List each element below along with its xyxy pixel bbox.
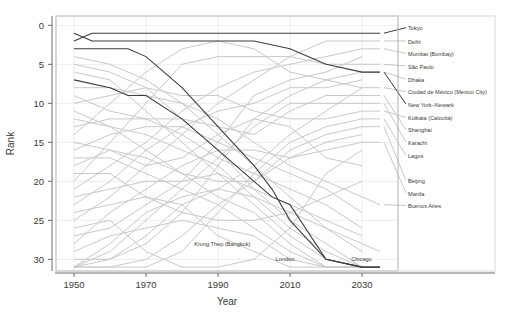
leader-line-tokyo [384, 28, 406, 33]
leader-line-dhaka [384, 72, 406, 79]
series-label-krung-thep-bangkok: Krung Thep (Bangkok) [194, 241, 250, 247]
series-label-tokyo: Tokyo [408, 25, 423, 31]
y-tick-label-20: 20 [33, 176, 44, 187]
series-label-dhaka: Dhaka [408, 77, 425, 83]
x-tick-label-1950: 1950 [63, 279, 84, 290]
plot-frame [56, 16, 398, 271]
series-line-tokyo [74, 33, 380, 41]
x-tick-label-2030: 2030 [351, 279, 372, 290]
series-label-london: London [276, 256, 295, 262]
leader-line-buenos-aires [384, 205, 406, 206]
leader-line-beijing [384, 127, 406, 181]
leader-line-mumbai-bombay [384, 49, 406, 54]
x-axis-title: Year [217, 296, 238, 307]
series-label-ciudad-de-m-xico-mexico-city: Ciudad de México (Mexico City) [408, 89, 487, 95]
rank-over-time-chart: TokyoDelhiMumbai (Bombay)São PauloDhakaC… [0, 0, 511, 315]
series-label-buenos-aires: Buenos Aires [408, 203, 441, 209]
series-label-karachi: Karachi [408, 140, 427, 146]
y-tick-label-0: 0 [39, 20, 44, 31]
x-tick-label-1990: 1990 [207, 279, 228, 290]
chart-canvas: TokyoDelhiMumbai (Bombay)São PauloDhakaC… [0, 0, 511, 315]
series-label-lagos: Lagos [408, 153, 423, 159]
series-label-mumbai-bombay: Mumbai (Bombay) [408, 51, 454, 57]
series-label-manila: Manila [408, 191, 425, 197]
y-tick-label-25: 25 [33, 215, 44, 226]
series-label-kolkata-calcutta: Kolkata (Calcutta) [408, 115, 453, 121]
series-label-new-york-newark: New York–Newark [408, 102, 454, 108]
series-label-s-o-paulo: São Paulo [408, 64, 434, 70]
series-label-delhi: Delhi [408, 39, 421, 45]
y-tick-label-10: 10 [33, 98, 44, 109]
y-axis-title: Rank [5, 131, 16, 155]
gridlines [56, 16, 398, 271]
series-line-new-york-newark [74, 33, 380, 72]
y-tick-label-15: 15 [33, 137, 44, 148]
y-tick-label-30: 30 [33, 254, 44, 265]
x-tick-label-2010: 2010 [279, 279, 300, 290]
series-label-shanghai: Shanghai [408, 127, 432, 133]
series-label-beijing: Beijing [408, 178, 425, 184]
series-label-chicago: Chicago [351, 256, 372, 262]
x-tick-label-1970: 1970 [135, 279, 156, 290]
y-tick-label-5: 5 [39, 59, 44, 70]
